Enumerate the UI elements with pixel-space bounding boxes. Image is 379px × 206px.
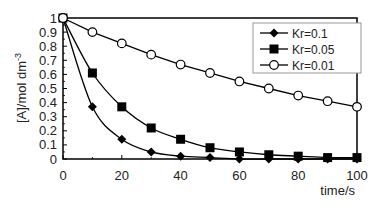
legend-label: Kr=0.01 [292, 59, 335, 73]
y-tick-label: 0.8 [39, 39, 57, 54]
y-tick-label: 0.6 [39, 67, 57, 82]
data-point [88, 102, 97, 111]
data-point [176, 60, 185, 69]
y-tick-label: 0.9 [39, 25, 57, 40]
legend-marker-icon [270, 45, 279, 54]
y-tick-label: 0.2 [39, 123, 57, 138]
data-point [294, 91, 303, 100]
data-point [88, 28, 97, 37]
legend: Kr=0.1Kr=0.05Kr=0.01 [253, 23, 361, 73]
data-point [117, 102, 126, 111]
y-tick-label: 1 [50, 11, 57, 26]
y-tick-label: 0 [50, 152, 57, 167]
data-point [353, 153, 362, 162]
y-tick-label: 0.7 [39, 53, 57, 68]
x-tick-label: 100 [346, 168, 368, 183]
data-point [323, 97, 332, 106]
legend-marker-icon [270, 61, 279, 70]
data-point [264, 150, 273, 159]
data-point [88, 68, 97, 77]
data-point [265, 84, 274, 93]
x-tick-label: 40 [173, 168, 187, 183]
data-point [147, 123, 156, 132]
data-point [59, 14, 68, 23]
data-point [294, 152, 303, 161]
y-axis-title-main: [A]/mol dm [14, 61, 29, 123]
data-point [206, 143, 215, 152]
x-tick-label: 0 [59, 168, 66, 183]
data-point [117, 135, 126, 144]
y-axis-title: [A]/mol dm-3 [13, 53, 29, 123]
data-point [176, 135, 185, 144]
y-tick-label: 0.5 [39, 81, 57, 96]
data-point [118, 39, 127, 48]
data-point [235, 147, 244, 156]
data-point [323, 153, 332, 162]
y-tick-label: 0.4 [39, 95, 57, 110]
data-point [206, 69, 215, 78]
data-point [235, 77, 244, 86]
y-axis-title-superscript: -3 [13, 53, 23, 61]
legend-label: Kr=0.1 [292, 27, 328, 41]
y-tick-label: 0.1 [39, 137, 57, 152]
x-tick-label: 20 [115, 168, 129, 183]
x-axis-title: time/s [320, 183, 355, 198]
data-point [206, 153, 215, 162]
data-point [353, 103, 362, 112]
x-tick-label: 60 [232, 168, 246, 183]
line-chart: 00.10.20.30.40.50.60.70.80.91 0204060801… [0, 0, 379, 206]
data-point [147, 50, 156, 59]
legend-label: Kr=0.05 [292, 43, 335, 57]
data-point [147, 147, 156, 156]
x-tick-label: 80 [291, 168, 305, 183]
y-tick-label: 0.3 [39, 109, 57, 124]
